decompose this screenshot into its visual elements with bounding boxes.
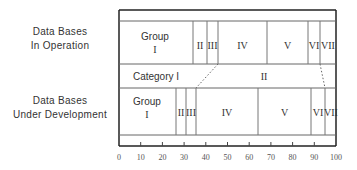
tick-label-30: 30 bbox=[180, 153, 188, 162]
op-label-VII: VII bbox=[321, 40, 335, 51]
tick-label-70: 70 bbox=[267, 153, 275, 162]
tick-label-80: 80 bbox=[289, 153, 297, 162]
category-label-I: Category I bbox=[133, 71, 179, 82]
dev-label-VI: VI bbox=[313, 107, 324, 118]
dev-label-II: II bbox=[178, 107, 185, 118]
dev-label-I: I bbox=[145, 109, 148, 120]
category-connector-right bbox=[320, 64, 325, 88]
op-label-group: Group bbox=[141, 31, 169, 42]
op-label-II: II bbox=[197, 40, 204, 51]
dev-label-VII: VII bbox=[324, 107, 338, 118]
stacked-bar-chart: Group I II III IV V VI VII Category I II… bbox=[0, 0, 357, 170]
category-connector-left bbox=[196, 64, 218, 88]
tick-label-20: 20 bbox=[158, 153, 166, 162]
dev-label-group: Group bbox=[133, 96, 161, 107]
tick-label-40: 40 bbox=[202, 153, 210, 162]
op-label-V: V bbox=[284, 40, 292, 51]
dev-label-V: V bbox=[281, 107, 289, 118]
op-label-IV: IV bbox=[237, 40, 248, 51]
x-axis-labels: 0 10 20 30 40 50 60 70 80 90 100 bbox=[117, 153, 342, 162]
tick-label-60: 60 bbox=[245, 153, 253, 162]
op-label-VI: VI bbox=[309, 40, 320, 51]
dev-label-IV: IV bbox=[222, 107, 233, 118]
tick-label-0: 0 bbox=[117, 153, 121, 162]
tick-label-10: 10 bbox=[137, 153, 145, 162]
category-label-II: II bbox=[261, 71, 268, 82]
op-label-III: III bbox=[208, 40, 218, 51]
tick-label-90: 90 bbox=[310, 153, 318, 162]
op-label-I: I bbox=[153, 44, 156, 55]
dev-label-III: III bbox=[186, 107, 196, 118]
tick-label-50: 50 bbox=[224, 153, 232, 162]
tick-label-100: 100 bbox=[330, 153, 342, 162]
development-bar bbox=[176, 88, 325, 135]
